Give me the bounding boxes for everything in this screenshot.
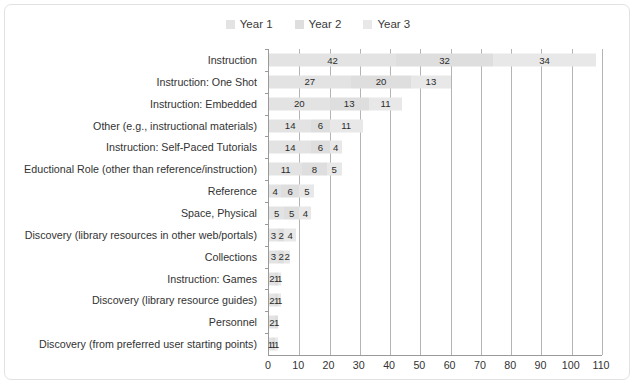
bar-segment[interactable]: 13 — [411, 75, 450, 88]
bar-segment[interactable]: 27 — [269, 75, 351, 88]
bar-segment[interactable]: 11 — [369, 97, 402, 110]
bar-segment[interactable]: 14 — [269, 141, 311, 154]
bar-segment[interactable]: 42 — [269, 53, 396, 66]
bar-segment[interactable]: 6 — [311, 119, 329, 132]
stacked-bar: 423234 — [269, 53, 596, 66]
bar-row[interactable]: 211 — [269, 268, 602, 290]
bar-segment[interactable]: 32 — [396, 53, 493, 66]
category-label: Instruction: Embedded — [5, 93, 263, 115]
stacked-bar: 211 — [269, 294, 281, 307]
category-label: Instruction: One Shot — [5, 71, 263, 93]
bar-segment[interactable]: 11 — [269, 163, 302, 176]
bar-row[interactable]: 1464 — [269, 136, 602, 158]
category-tick — [265, 268, 269, 269]
bar-value-label: 5 — [304, 186, 309, 196]
bar-segment[interactable]: 4 — [269, 185, 281, 198]
bar-segment[interactable]: 20 — [351, 75, 412, 88]
bar-segment[interactable]: 11 — [330, 119, 363, 132]
bar-segment[interactable]: 5 — [327, 163, 342, 176]
bar-segment[interactable]: 2 — [284, 250, 290, 263]
bar-value-label: 5 — [274, 208, 279, 218]
stacked-bar: 14611 — [269, 119, 363, 132]
stacked-bar: 1464 — [269, 141, 342, 154]
category-label: Reference — [5, 180, 263, 202]
value-axis: 0102030405060708090100110 — [268, 359, 601, 377]
plot-wrapper: InstructionInstruction: One ShotInstruct… — [5, 49, 631, 381]
x-tick-label: 50 — [413, 359, 425, 371]
bar-value-label: 27 — [305, 77, 316, 87]
bar-row[interactable]: 1185 — [269, 158, 602, 180]
legend-item-year-3[interactable]: Year 3 — [363, 19, 410, 31]
bar-row[interactable]: 272013 — [269, 71, 602, 93]
bar-value-label: 42 — [327, 55, 338, 65]
bar-row[interactable]: 21 — [269, 311, 602, 333]
category-tick — [265, 311, 269, 312]
bar-row[interactable]: 201311 — [269, 93, 602, 115]
bar-series-group: 4232342720132013111461114641185465554324… — [269, 49, 602, 355]
legend-swatch-year-1 — [226, 20, 235, 29]
bar-segment[interactable]: 1 — [278, 294, 281, 307]
category-label: Discovery (from preferred user starting … — [5, 333, 263, 355]
bar-segment[interactable]: 5 — [269, 206, 284, 219]
category-label: Space, Physical — [5, 202, 263, 224]
bar-row[interactable]: 554 — [269, 202, 602, 224]
plot-area: 4232342720132013111461114641185465554324… — [268, 49, 602, 356]
bar-row[interactable]: 111 — [269, 333, 602, 355]
bar-segment[interactable]: 5 — [299, 185, 314, 198]
bar-segment[interactable]: 8 — [302, 163, 326, 176]
bar-segment[interactable]: 5 — [284, 206, 299, 219]
x-tick-label: 20 — [323, 359, 335, 371]
bar-segment[interactable]: 14 — [269, 119, 311, 132]
stacked-bar: 465 — [269, 185, 314, 198]
x-tick-label: 30 — [353, 359, 365, 371]
bar-segment[interactable]: 1 — [275, 316, 278, 329]
legend-label-year-2: Year 2 — [309, 19, 342, 31]
bar-value-label: 2 — [278, 252, 283, 262]
category-tick — [265, 136, 269, 137]
bar-segment[interactable]: 3 — [269, 228, 278, 241]
stacked-bar: 201311 — [269, 97, 402, 110]
x-tick-label: 60 — [444, 359, 456, 371]
bar-row[interactable]: 322 — [269, 246, 602, 268]
bar-segment[interactable]: 3 — [269, 250, 278, 263]
bar-value-label: 5 — [289, 208, 294, 218]
bar-segment[interactable]: 1 — [275, 338, 278, 351]
chart-container: Year 1 Year 2 Year 3 InstructionInstruct… — [4, 4, 630, 380]
bar-segment[interactable]: 4 — [284, 228, 296, 241]
bar-row[interactable]: 14611 — [269, 115, 602, 137]
category-tick — [265, 246, 269, 247]
bar-segment[interactable]: 1 — [278, 272, 281, 285]
category-tick — [265, 224, 269, 225]
bar-segment[interactable]: 6 — [311, 141, 329, 154]
bar-segment[interactable]: 4 — [330, 141, 342, 154]
bar-value-label: 1 — [274, 339, 279, 349]
legend-item-year-2[interactable]: Year 2 — [295, 19, 342, 31]
bar-segment[interactable]: 20 — [269, 97, 330, 110]
legend-item-year-1[interactable]: Year 1 — [226, 19, 273, 31]
bar-segment[interactable]: 6 — [281, 185, 299, 198]
category-tick — [265, 180, 269, 181]
bar-segment[interactable]: 34 — [493, 53, 596, 66]
bar-value-label: 13 — [426, 77, 437, 87]
bar-value-label: 20 — [376, 77, 387, 87]
category-tick — [265, 93, 269, 94]
bar-value-label: 5 — [331, 164, 336, 174]
bar-value-label: 3 — [271, 252, 276, 262]
category-label: Discovery (library resources in other we… — [5, 224, 263, 246]
stacked-bar: 554 — [269, 206, 311, 219]
bar-value-label: 4 — [303, 208, 308, 218]
stacked-bar: 211 — [269, 272, 281, 285]
legend-swatch-year-2 — [295, 20, 304, 29]
bar-row[interactable]: 465 — [269, 180, 602, 202]
bar-segment[interactable]: 13 — [330, 97, 369, 110]
category-label: Collections — [5, 246, 263, 268]
x-tick-label: 40 — [383, 359, 395, 371]
category-label: Instruction: Self-Paced Tutorials — [5, 136, 263, 158]
bar-row[interactable]: 324 — [269, 224, 602, 246]
bar-row[interactable]: 211 — [269, 289, 602, 311]
bar-value-label: 8 — [312, 164, 317, 174]
bar-segment[interactable]: 4 — [299, 206, 311, 219]
bar-value-label: 32 — [439, 55, 450, 65]
bar-row[interactable]: 423234 — [269, 49, 602, 71]
category-axis: InstructionInstruction: One ShotInstruct… — [5, 49, 263, 355]
